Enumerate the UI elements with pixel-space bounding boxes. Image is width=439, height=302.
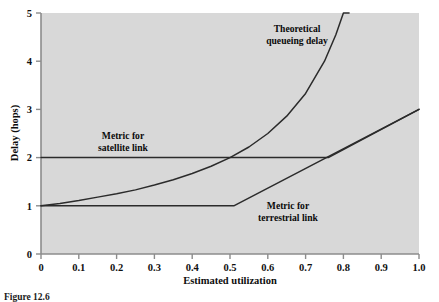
y-axis-tick-labels: 012345 (27, 8, 33, 260)
x-tick-label: 0.8 (337, 262, 350, 273)
figure-container: 012345 00.10.20.30.40.50.60.70.80.91.0 E… (0, 0, 439, 302)
x-tick-label: 0.4 (186, 262, 200, 273)
annotation-theoretical: Theoretical queueing delay (266, 23, 328, 46)
x-axis-tick-labels: 00.10.20.30.40.50.60.70.80.91.0 (38, 262, 425, 273)
annotation-theoretical-line2: queueing delay (266, 35, 328, 46)
y-tick-label: 0 (27, 249, 32, 260)
x-tick-label: 0.1 (72, 262, 85, 273)
x-tick-label: 1.0 (412, 262, 425, 273)
plot-background (41, 13, 419, 254)
y-tick-label: 3 (27, 104, 32, 115)
annotation-satellite-line1: Metric for (102, 130, 145, 141)
annotation-satellite-line2: satellite link (98, 142, 148, 153)
figure-caption: Figure 12.6 (4, 292, 184, 302)
x-tick-label: 0 (38, 262, 43, 273)
y-axis-title: Delay (hops) (9, 104, 21, 161)
x-tick-label: 0.9 (375, 262, 388, 273)
x-axis-title: Estimated utilization (183, 275, 277, 286)
x-tick-label: 0.5 (223, 262, 236, 273)
x-tick-label: 0.6 (261, 262, 274, 273)
annotation-satellite: Metric for satellite link (98, 130, 148, 153)
figure-caption-text: Figure 12.6 (4, 292, 184, 302)
x-tick-label: 0.2 (110, 262, 123, 273)
y-tick-label: 1 (27, 201, 32, 212)
delay-vs-utilization-chart: 012345 00.10.20.30.40.50.60.70.80.91.0 E… (0, 0, 439, 302)
y-tick-label: 5 (27, 8, 32, 19)
annotation-theoretical-line1: Theoretical (274, 23, 321, 34)
y-tick-label: 2 (27, 152, 32, 163)
annotation-terrestrial-line1: Metric for (267, 200, 310, 211)
annotation-terrestrial-line2: terrestrial link (258, 212, 318, 223)
x-tick-label: 0.7 (299, 262, 312, 273)
y-tick-label: 4 (27, 56, 33, 67)
x-tick-label: 0.3 (148, 262, 161, 273)
